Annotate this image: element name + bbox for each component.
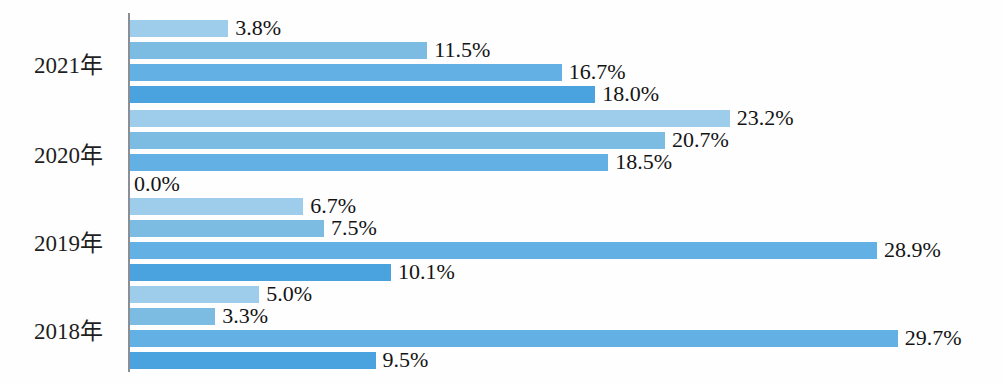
category-label-1: 2020年 xyxy=(34,136,120,170)
bar-group: 2021年3.8%11.5%16.7%18.0% xyxy=(0,20,1003,103)
bar-2-3[interactable] xyxy=(130,264,391,281)
bar-3-3[interactable] xyxy=(130,352,376,369)
bar-row: 5.0% xyxy=(130,286,259,303)
bar-row: 3.8% xyxy=(130,20,228,37)
bar-value-label-3-2: 29.7% xyxy=(898,325,962,351)
bar-0-1[interactable] xyxy=(130,42,427,59)
bar-chart: 2021年3.8%11.5%16.7%18.0%2020年23.2%20.7%1… xyxy=(0,0,1003,384)
bar-row: 9.5% xyxy=(130,352,376,369)
bar-row: 20.7% xyxy=(130,132,665,149)
bar-row: 16.7% xyxy=(130,64,562,81)
bar-row: 11.5% xyxy=(130,42,427,59)
bar-1-0[interactable] xyxy=(130,110,730,127)
bar-group: 2020年23.2%20.7%18.5%0.0% xyxy=(0,110,1003,193)
bar-value-label-0-0: 3.8% xyxy=(228,15,281,41)
plot-area: 2021年3.8%11.5%16.7%18.0%2020年23.2%20.7%1… xyxy=(0,0,1003,384)
bar-row: 18.5% xyxy=(130,154,608,171)
bar-value-label-2-2: 28.9% xyxy=(877,237,941,263)
bar-value-label-1-1: 20.7% xyxy=(665,127,729,153)
bar-row: 29.7% xyxy=(130,330,898,347)
bar-1-1[interactable] xyxy=(130,132,665,149)
bar-row: 18.0% xyxy=(130,86,595,103)
bar-value-label-3-3: 9.5% xyxy=(376,347,429,373)
bar-row: 10.1% xyxy=(130,264,391,281)
bar-group: 2018年5.0%3.3%29.7%9.5% xyxy=(0,286,1003,369)
bar-value-label-2-3: 10.1% xyxy=(391,259,455,285)
bar-row: 7.5% xyxy=(130,220,324,237)
category-label-3: 2018年 xyxy=(34,312,120,346)
bar-2-2[interactable] xyxy=(130,242,877,259)
bar-value-label-2-1: 7.5% xyxy=(324,215,377,241)
category-label-0: 2021年 xyxy=(34,46,120,80)
bar-value-label-0-3: 18.0% xyxy=(595,81,659,107)
bar-value-label-0-1: 11.5% xyxy=(427,37,490,63)
bar-0-2[interactable] xyxy=(130,64,562,81)
bar-row: 28.9% xyxy=(130,242,877,259)
bar-row: 3.3% xyxy=(130,308,215,325)
bar-group: 2019年6.7%7.5%28.9%10.1% xyxy=(0,198,1003,281)
bar-3-1[interactable] xyxy=(130,308,215,325)
bar-3-2[interactable] xyxy=(130,330,898,347)
bar-value-label-1-0: 23.2% xyxy=(730,105,794,131)
bar-row: 6.7% xyxy=(130,198,303,215)
bar-0-3[interactable] xyxy=(130,86,595,103)
bar-1-2[interactable] xyxy=(130,154,608,171)
bar-0-0[interactable] xyxy=(130,20,228,37)
bar-3-0[interactable] xyxy=(130,286,259,303)
bar-2-1[interactable] xyxy=(130,220,324,237)
category-label-2: 2019年 xyxy=(34,224,120,258)
bar-2-0[interactable] xyxy=(130,198,303,215)
bar-value-label-3-1: 3.3% xyxy=(215,303,268,329)
bar-row: 23.2% xyxy=(130,110,730,127)
bar-value-label-1-2: 18.5% xyxy=(608,149,672,175)
bar-row: 0.0% xyxy=(130,176,131,193)
bar-value-label-1-3: 0.0% xyxy=(130,171,180,197)
